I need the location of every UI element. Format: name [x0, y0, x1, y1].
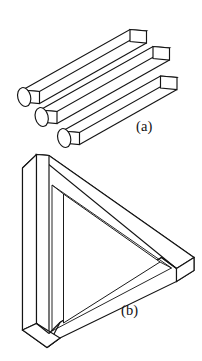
- tribar-left-front-face: [23, 155, 37, 331]
- figure-illustration: [0, 0, 202, 361]
- rod-middle-far-end-face: [153, 47, 170, 61]
- impossible-figures-page: (a) (b): [0, 0, 202, 361]
- panel-b-penrose-triangle: [23, 155, 195, 348]
- caption-panel-b: (b): [121, 303, 138, 318]
- rod-bottom-far-end-face: [161, 76, 178, 90]
- tribar-left-outer-side-face: [37, 155, 50, 334]
- rod-bottom-upper-face: [63, 76, 178, 133]
- rod-top-far-end-face: [130, 30, 147, 44]
- rod-bottom: [56, 76, 177, 149]
- panel-a-three-rods: [16, 30, 177, 149]
- caption-panel-a: (a): [136, 119, 152, 134]
